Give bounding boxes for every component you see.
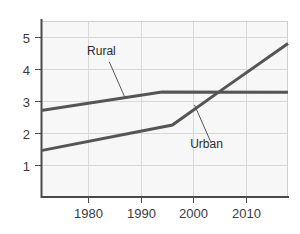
annotation-label-rural: Rural xyxy=(87,44,116,58)
x-axis-tick-label: 1980 xyxy=(74,206,103,221)
x-axis-tick-label: 1990 xyxy=(127,206,156,221)
y-axis-tick-label: 4 xyxy=(23,63,30,78)
x-axis-tick-labels: 1980199020002010 xyxy=(74,206,261,221)
x-axis-tick-label: 2010 xyxy=(232,206,261,221)
y-axis-tick-label: 2 xyxy=(23,127,30,142)
annotation-label-urban: Urban xyxy=(190,137,223,151)
y-axis-tick-label: 3 xyxy=(23,95,30,110)
y-axis-ticks xyxy=(35,38,41,166)
x-axis-tick-label: 2000 xyxy=(179,206,208,221)
plot-area-background xyxy=(41,21,288,197)
y-axis-tick-label: 1 xyxy=(23,159,30,174)
y-axis-tick-labels: 12345 xyxy=(23,31,30,174)
chart-canvas: 12345 1980199020002010 RuralUrban xyxy=(0,0,300,234)
line-chart-figure: 12345 1980199020002010 RuralUrban xyxy=(0,0,300,234)
y-axis-tick-label: 5 xyxy=(23,31,30,46)
